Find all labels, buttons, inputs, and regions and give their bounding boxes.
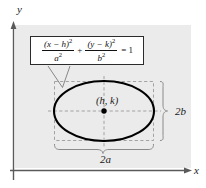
equals-one: = 1: [121, 46, 133, 55]
minor-axis-dimension-label: 2b: [175, 105, 186, 117]
fraction-x-term: (x − h)2 a2: [42, 38, 74, 63]
denominator-b: b2: [95, 51, 107, 63]
numerator-x: (x − h)2: [42, 38, 74, 50]
fraction-y-term: (y − k)2 b2: [85, 38, 117, 63]
denominator-a: a2: [52, 51, 64, 63]
x-axis-arrow: [184, 168, 192, 174]
ellipse-diagram: y x (x − h)2 a2 + (y − k)2 b2 = 1 (h, k)…: [0, 0, 206, 188]
x-axis-label: x: [194, 164, 199, 176]
center-coordinate-label: (h, k): [96, 95, 118, 106]
ellipse-standard-equation: (x − h)2 a2 + (y − k)2 b2 = 1: [41, 38, 133, 63]
numerator-y: (y − k)2: [85, 38, 117, 50]
major-axis-dimension-label: 2a: [100, 153, 111, 165]
y-axis-label: y: [17, 3, 22, 15]
center-point-dot: [101, 108, 106, 113]
plus-operator: +: [77, 46, 82, 55]
equation-callout-box: (x − h)2 a2 + (y − k)2 b2 = 1: [30, 36, 144, 65]
